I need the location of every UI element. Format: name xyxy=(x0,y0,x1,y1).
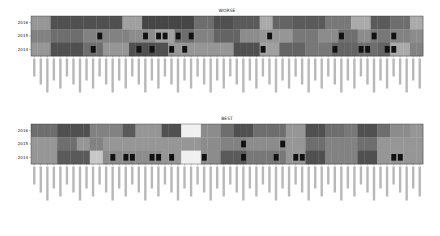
heatmap-cell xyxy=(116,43,123,57)
heatmap-cell xyxy=(273,137,280,151)
heatmap-cell xyxy=(384,16,391,30)
heatmap-cell xyxy=(338,16,345,30)
x-tick-label xyxy=(209,59,211,93)
heatmap-cell xyxy=(207,16,214,30)
heatmap-cell xyxy=(83,16,90,30)
x-tick-label xyxy=(249,167,251,189)
heatmap-cell xyxy=(57,124,64,138)
heatmap-cell xyxy=(364,16,371,30)
heatmap-cell xyxy=(377,43,384,57)
heatmap-cell xyxy=(51,16,58,30)
chart-title: WORSE xyxy=(219,8,236,13)
x-tick-label xyxy=(360,59,362,77)
heatmap-cell xyxy=(390,16,397,30)
x-tick-label xyxy=(412,167,414,189)
marker-cell xyxy=(241,141,246,148)
x-tick-label xyxy=(111,59,113,93)
heatmap-cell xyxy=(175,43,182,57)
heatmap-cell xyxy=(240,29,247,43)
heatmap-cell xyxy=(338,137,345,151)
marker-cell xyxy=(267,33,272,40)
heatmap-cell xyxy=(129,43,136,57)
heatmap-cell xyxy=(44,29,51,43)
x-tick-label xyxy=(157,59,159,89)
marker-cell xyxy=(391,46,396,53)
heatmap-cell xyxy=(318,151,325,165)
heatmap-cell xyxy=(416,29,423,43)
marker-cell xyxy=(137,46,142,53)
heatmap-cell xyxy=(364,124,371,138)
marker-cell xyxy=(274,154,279,161)
x-tick-label xyxy=(151,167,153,189)
heatmap-cell xyxy=(116,137,123,151)
heatmap-cell xyxy=(96,124,103,138)
heatmap-cell xyxy=(149,16,156,30)
heatmap-cell xyxy=(318,137,325,151)
heatmap-cell xyxy=(403,29,410,43)
heatmap-cell xyxy=(96,43,103,57)
x-tick-label xyxy=(307,59,309,93)
heatmap-cell xyxy=(136,16,143,30)
x-tick-label xyxy=(177,167,179,201)
heatmap-cell xyxy=(299,43,306,57)
heatmap-cell xyxy=(129,16,136,30)
heatmap-cell xyxy=(410,151,417,165)
heatmap-cell xyxy=(149,137,156,151)
heatmap-cell xyxy=(31,124,38,138)
heatmap-cell xyxy=(64,29,71,43)
heatmap-cell xyxy=(162,151,169,165)
heatmap-cell xyxy=(83,124,90,138)
heatmap-cell xyxy=(240,43,247,57)
heatmap-cell xyxy=(70,124,77,138)
heatmap-cell xyxy=(136,137,143,151)
heatmap-cell xyxy=(201,16,208,30)
x-tick-label xyxy=(419,167,421,197)
heatmap-cell xyxy=(253,124,260,138)
heatmap-cell xyxy=(234,43,241,57)
heatmap-cell xyxy=(351,43,358,57)
heatmap-cell xyxy=(175,16,182,30)
x-tick-label xyxy=(92,167,94,197)
heatmap-cell xyxy=(358,124,365,138)
heatmap-cell xyxy=(162,43,169,57)
heatmap-cell xyxy=(44,151,51,165)
marker-cell xyxy=(391,33,396,40)
x-tick-label xyxy=(131,167,133,185)
heatmap-cell xyxy=(77,29,84,43)
heatmap-cell xyxy=(207,43,214,57)
x-tick-label xyxy=(144,167,146,201)
heatmap-cell xyxy=(220,151,227,165)
heatmap-cell xyxy=(194,137,201,151)
heatmap-cell xyxy=(70,16,77,30)
heatmap-cell xyxy=(358,29,365,43)
heatmap-cell xyxy=(351,137,358,151)
x-tick-label xyxy=(79,167,81,201)
x-tick-label xyxy=(236,167,238,193)
heatmap-cell xyxy=(155,137,162,151)
heatmap-cell xyxy=(358,137,365,151)
marker-cell xyxy=(372,33,377,40)
heatmap-cell xyxy=(77,137,84,151)
heatmap-cell xyxy=(384,151,391,165)
heatmap-cell xyxy=(318,124,325,138)
heatmap-cell xyxy=(90,151,97,165)
heatmap-cell xyxy=(136,124,143,138)
heatmap-cell xyxy=(403,137,410,151)
heatmap-cell xyxy=(214,16,221,30)
x-tick-label xyxy=(340,59,342,93)
heatmap-cell xyxy=(332,151,339,165)
x-tick-label xyxy=(288,167,290,197)
marker-cell xyxy=(150,154,155,161)
heatmap-cell xyxy=(234,29,241,43)
heatmap-cell xyxy=(299,124,306,138)
heatmap-cell xyxy=(188,137,195,151)
heatmap-cell xyxy=(194,16,201,30)
x-tick-label xyxy=(268,167,270,193)
heatmap-cell xyxy=(227,151,234,165)
x-tick-label xyxy=(236,59,238,85)
x-tick-label xyxy=(66,167,68,185)
heatmap-cell xyxy=(397,137,404,151)
x-tick-label xyxy=(347,59,349,81)
heatmap-cell xyxy=(325,16,332,30)
x-tick-label xyxy=(307,167,309,201)
